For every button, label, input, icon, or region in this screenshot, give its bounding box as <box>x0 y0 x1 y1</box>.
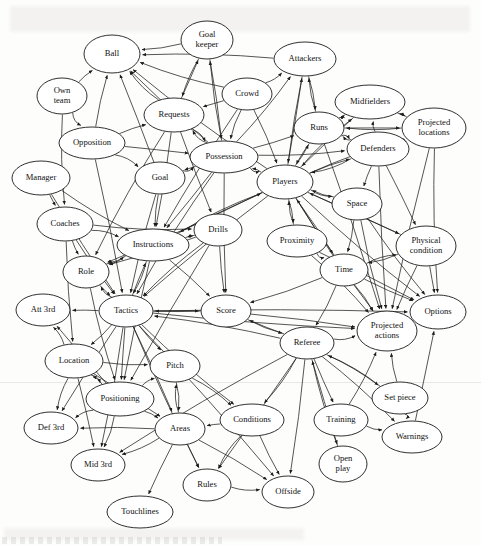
graph-edge <box>260 436 279 474</box>
graph-node-opposition[interactable]: Opposition <box>59 127 125 159</box>
graph-edge <box>203 101 223 107</box>
graph-node-goalkeeper[interactable]: Goalkeeper <box>181 21 233 59</box>
node-label: keeper <box>196 39 219 49</box>
graph-node-rules[interactable]: Rules <box>183 469 231 501</box>
graph-node-pitch[interactable]: Pitch <box>150 350 200 382</box>
graph-node-role[interactable]: Role <box>63 256 109 288</box>
graph-node-possession[interactable]: Possession <box>190 141 258 173</box>
node-label: Proximity <box>280 235 315 245</box>
graph-node-att3rd[interactable]: Att 3rd <box>16 294 70 326</box>
node-label: Training <box>326 414 356 424</box>
graph-edge <box>188 445 199 468</box>
node-label: Positioning <box>100 393 140 403</box>
node-label: play <box>336 463 351 473</box>
graph-node-training[interactable]: Training <box>314 404 368 436</box>
node-label: Requests <box>158 109 190 119</box>
graph-node-location[interactable]: Location <box>45 344 103 378</box>
graph-node-requests[interactable]: Requests <box>144 98 204 132</box>
graph-node-areas[interactable]: Areas <box>155 413 205 445</box>
graph-edge <box>266 73 282 83</box>
graph-node-warnings[interactable]: Warnings <box>382 421 442 453</box>
graph-edge <box>181 61 198 99</box>
graph-node-def3rd[interactable]: Def 3rd <box>24 412 78 444</box>
node-label: Role <box>78 266 94 276</box>
graph-node-time[interactable]: Time <box>320 254 368 286</box>
graph-node-options[interactable]: Options <box>410 295 466 329</box>
graph-node-runs[interactable]: Runs <box>294 112 344 144</box>
diagram-canvas: GoalkeeperBallAttackersOwnteamCrowdMidfi… <box>0 0 481 545</box>
graph-node-manager[interactable]: Manager <box>12 161 70 195</box>
node-label: Options <box>424 306 452 316</box>
graph-edge <box>210 59 221 138</box>
graph-node-physcond[interactable]: Physicalcondition <box>396 226 456 266</box>
graph-node-setpiece[interactable]: Set piece <box>372 382 428 414</box>
graph-node-mid3rd[interactable]: Mid 3rd <box>71 449 125 481</box>
graph-node-players[interactable]: Players <box>257 165 313 199</box>
node-label: Score <box>216 305 236 315</box>
graph-node-positioning[interactable]: Positioning <box>86 382 154 416</box>
graph-node-goal[interactable]: Goal <box>135 162 185 194</box>
graph-node-projact[interactable]: Projectedactions <box>357 311 417 351</box>
node-label: Conditions <box>233 414 271 424</box>
graph-edge <box>250 320 284 334</box>
graph-edge <box>367 426 382 430</box>
node-label: Instructions <box>133 239 174 249</box>
graph-edge <box>91 375 100 382</box>
graph-edge <box>386 166 415 225</box>
graph-edge <box>142 378 154 385</box>
graph-node-projloc[interactable]: Projectedlocations <box>402 108 466 148</box>
graph-node-openplay[interactable]: Openplay <box>319 446 367 482</box>
node-label: Goal <box>152 172 169 182</box>
graph-edge <box>175 385 178 413</box>
node-label: Att 3rd <box>31 304 56 314</box>
graph-node-proximity[interactable]: Proximity <box>267 225 327 257</box>
graph-node-conditions[interactable]: Conditions <box>220 404 284 436</box>
node-label: Space <box>347 198 368 208</box>
graph-node-drills[interactable]: Drills <box>194 214 242 246</box>
graph-node-attackers[interactable]: Attackers <box>274 42 336 76</box>
node-label: Ball <box>105 48 120 58</box>
graph-edge <box>142 44 181 50</box>
node-label: Offside <box>275 486 301 496</box>
node-label: Referee <box>294 337 321 347</box>
graph-edge <box>115 155 138 167</box>
graph-node-crowd[interactable]: Crowd <box>222 78 272 110</box>
graph-edge <box>57 378 68 410</box>
graph-edge <box>220 246 225 292</box>
graph-edge <box>379 166 386 308</box>
graph-edge <box>341 135 349 139</box>
graph-node-score[interactable]: Score <box>201 295 251 327</box>
graph-node-ball[interactable]: Ball <box>84 35 140 73</box>
graph-node-instructions[interactable]: Instructions <box>117 229 189 261</box>
node-label: Possession <box>205 151 243 161</box>
graph-node-defenders[interactable]: Defenders <box>347 132 409 166</box>
node-label: Opposition <box>73 137 112 147</box>
node-label: Drills <box>208 224 228 234</box>
graph-node-referee[interactable]: Referee <box>280 327 334 359</box>
graph-edge <box>155 194 158 226</box>
node-label: Coaches <box>50 218 80 228</box>
graph-node-ownteam[interactable]: Ownteam <box>37 78 87 114</box>
graph-edge <box>210 61 221 140</box>
graph-edge <box>78 378 94 446</box>
graph-edge <box>54 327 64 344</box>
node-label: condition <box>410 245 443 255</box>
graph-edge <box>145 411 158 418</box>
graph-edge <box>341 115 345 117</box>
graph-edge <box>122 438 159 454</box>
graph-edge <box>81 427 155 428</box>
node-label: team <box>54 95 71 105</box>
graph-node-midfielders[interactable]: Midfielders <box>335 85 405 119</box>
graph-edge <box>251 314 355 327</box>
graph-node-coaches[interactable]: Coaches <box>37 207 93 241</box>
graph-edge <box>153 313 354 328</box>
graph-node-tactics[interactable]: Tactics <box>99 295 153 327</box>
graph-node-touchlines[interactable]: Touchlines <box>107 496 173 528</box>
graph-edge <box>79 71 93 82</box>
graph-node-space[interactable]: Space <box>332 188 382 220</box>
node-label: Players <box>272 176 298 186</box>
graph-edge <box>76 410 94 417</box>
graph-node-offside[interactable]: Offside <box>262 476 314 508</box>
node-label: Attackers <box>289 53 323 63</box>
node-label: Defenders <box>360 143 396 153</box>
